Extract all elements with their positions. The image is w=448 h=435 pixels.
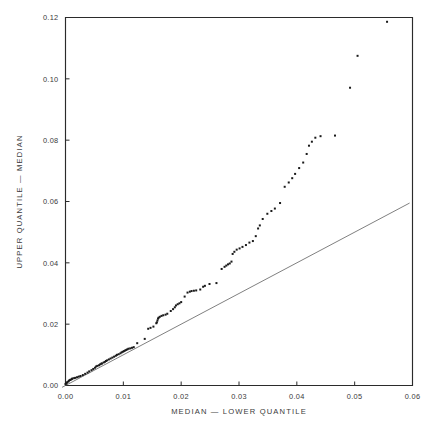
data-point — [170, 310, 172, 312]
y-tick-label: 0.02 — [43, 320, 59, 329]
plot-frame — [66, 18, 413, 386]
data-point — [84, 373, 86, 375]
data-point — [349, 87, 351, 89]
data-point — [174, 306, 176, 308]
x-tick-label: 0.03 — [231, 392, 247, 401]
y-tick-label: 0.10 — [43, 75, 59, 84]
data-point — [294, 173, 296, 175]
data-point — [133, 346, 135, 348]
reference-line — [62, 203, 410, 387]
x-tick-label: 0.02 — [173, 392, 189, 401]
data-point — [172, 308, 174, 310]
data-point — [236, 249, 238, 251]
data-point — [82, 374, 84, 376]
data-point — [191, 290, 193, 292]
data-point — [239, 247, 241, 249]
data-point — [199, 289, 201, 291]
data-point — [96, 365, 98, 367]
x-axis-tick-labels: 0.000.010.020.030.040.050.06 — [58, 392, 421, 401]
data-point — [166, 313, 168, 315]
y-tick-label: 0.00 — [43, 381, 59, 390]
data-point — [274, 208, 276, 210]
quantile-scatter-figure: 0.000.010.020.030.040.050.06 0.000.020.0… — [0, 0, 448, 435]
data-point — [255, 235, 257, 237]
data-point — [298, 167, 300, 169]
data-point — [156, 321, 158, 323]
data-point — [386, 21, 388, 23]
x-tick-label: 0.00 — [58, 392, 74, 401]
y-axis-tick-labels: 0.000.020.040.060.080.100.12 — [43, 13, 59, 390]
data-point — [162, 314, 164, 316]
plot-svg: 0.000.010.020.030.040.050.06 0.000.020.0… — [0, 0, 448, 435]
data-point — [111, 357, 113, 359]
data-point — [187, 292, 189, 294]
data-point — [311, 141, 313, 143]
data-point — [128, 348, 130, 350]
y-tick-label: 0.06 — [43, 197, 59, 206]
data-point — [302, 162, 304, 164]
data-point — [159, 316, 161, 318]
data-point — [245, 244, 247, 246]
data-point — [279, 202, 281, 204]
data-point — [106, 359, 108, 361]
x-tick-label: 0.06 — [405, 392, 421, 401]
data-point — [71, 377, 73, 379]
data-point — [195, 289, 197, 291]
data-point — [259, 224, 261, 226]
data-point — [177, 303, 179, 305]
data-point — [224, 266, 226, 268]
x-tick-label: 0.04 — [289, 392, 305, 401]
data-point — [161, 315, 163, 317]
data-point — [165, 314, 167, 316]
data-point — [156, 319, 158, 321]
y-tick-label: 0.08 — [43, 136, 59, 145]
data-point — [221, 268, 223, 270]
data-point — [308, 145, 310, 147]
data-point — [257, 227, 259, 229]
data-point-group — [65, 21, 389, 385]
data-point — [152, 326, 154, 328]
data-point — [86, 372, 88, 374]
data-point — [230, 261, 232, 263]
data-point — [80, 375, 82, 377]
data-point — [229, 262, 231, 264]
x-axis-ticks — [66, 382, 413, 386]
data-point — [178, 302, 180, 304]
data-point — [252, 240, 254, 242]
data-point — [76, 376, 78, 378]
data-point — [113, 356, 115, 358]
data-point — [209, 283, 211, 285]
data-point — [227, 263, 229, 265]
data-point — [233, 251, 235, 253]
data-point — [184, 296, 186, 298]
data-point — [284, 186, 286, 188]
data-point — [291, 177, 293, 179]
data-point — [189, 291, 191, 293]
x-tick-label: 0.01 — [116, 392, 132, 401]
y-tick-label: 0.12 — [43, 13, 59, 22]
frame-border — [66, 18, 413, 386]
data-point — [314, 137, 316, 139]
data-point — [215, 282, 217, 284]
data-point — [204, 285, 206, 287]
data-point — [116, 354, 118, 356]
y-tick-label: 0.04 — [43, 259, 59, 268]
data-point — [91, 369, 93, 371]
data-point — [92, 368, 94, 370]
data-point — [101, 362, 103, 364]
x-tick-label: 0.05 — [347, 392, 363, 401]
data-point — [144, 338, 146, 340]
data-point — [74, 377, 76, 379]
data-point — [288, 181, 290, 183]
data-point — [357, 55, 359, 57]
data-point — [136, 342, 138, 344]
y-axis-title: UPPER QUANTILE — MEDIAN — [15, 134, 24, 268]
data-point — [266, 213, 268, 215]
data-point — [147, 328, 149, 330]
data-point — [334, 135, 336, 137]
y-axis-ticks — [66, 18, 70, 386]
data-point — [78, 376, 80, 378]
data-point — [193, 290, 195, 292]
data-point — [225, 265, 227, 267]
data-point — [131, 347, 133, 349]
